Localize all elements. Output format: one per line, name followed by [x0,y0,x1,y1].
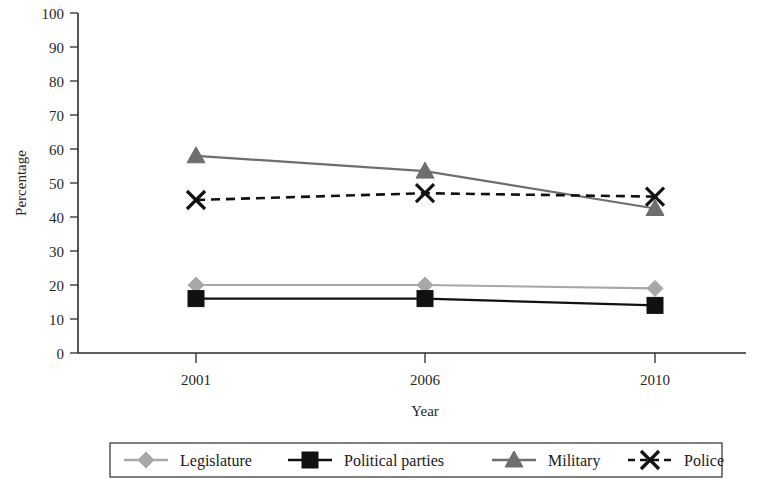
y-axis-tick-labels: 100 90 80 70 60 50 40 30 20 10 0 [42,6,65,362]
x-axis-ticks [196,353,655,363]
y-tick-label: 30 [49,244,64,260]
y-tick-label: 80 [49,74,64,90]
legend-label: Political parties [344,452,444,470]
y-tick-label: 0 [57,346,65,362]
series-police [187,184,664,209]
series-political-parties [188,291,663,314]
legend: LegislaturePolitical partiesMilitaryPoli… [110,443,724,477]
x-tick-label: 2001 [181,372,211,388]
y-tick-label: 10 [49,312,64,328]
y-tick-label: 40 [49,210,64,226]
y-tick-label: 20 [49,278,64,294]
y-axis-title: Percentage [13,150,29,216]
legend-item-political-parties[interactable]: Political parties [288,452,444,470]
y-tick-label: 90 [49,40,64,56]
line-chart: 100 90 80 70 60 50 40 30 20 10 0 Percent… [0,0,758,479]
series-layer [187,147,664,314]
legend-label: Military [548,452,600,470]
x-axis-title: Year [411,403,439,419]
y-tick-label: 50 [49,176,64,192]
y-tick-label: 70 [49,108,64,124]
x-axis-tick-labels: 2001 2006 2010 [181,372,670,388]
legend-label: Legislature [180,452,252,470]
diamond-marker [647,280,663,296]
chart-canvas: 100 90 80 70 60 50 40 30 20 10 0 Percent… [0,0,758,479]
square-marker [302,452,318,468]
series-military [187,147,664,216]
y-tick-label: 100 [42,6,65,22]
square-marker [188,291,204,307]
triangle-marker [187,147,205,163]
square-marker [647,297,663,313]
x-tick-label: 2006 [410,372,441,388]
legend-label: Police [684,452,724,469]
x-tick-label: 2010 [640,372,670,388]
cross-x-marker [416,184,434,202]
y-axis-ticks [70,13,78,353]
square-marker [417,291,433,307]
y-tick-label: 60 [49,142,64,158]
